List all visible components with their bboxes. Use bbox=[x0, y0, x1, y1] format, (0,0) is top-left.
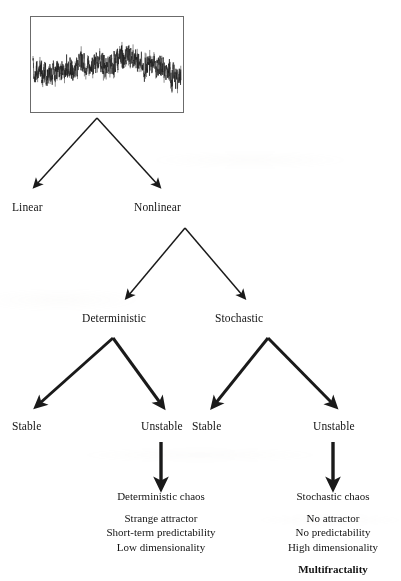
edge-root-to-nonlinear bbox=[97, 118, 158, 185]
node-stochastic-stable: Stable bbox=[192, 420, 221, 433]
outcome-stochastic-chaos-title: Stochastic chaos bbox=[253, 489, 401, 504]
time-series-trace bbox=[31, 17, 183, 112]
outcome-stochastic-chaos-emphasis: Multifractality bbox=[253, 562, 401, 577]
edge-deterministic-to-stable bbox=[39, 338, 113, 404]
node-deterministic-stable: Stable bbox=[12, 420, 41, 433]
time-series-plot-panel bbox=[30, 16, 184, 113]
outcome-deterministic-chaos-line-1: Strange attractor bbox=[81, 511, 241, 526]
node-nonlinear-label: Nonlinear bbox=[134, 201, 181, 213]
outcome-deterministic-chaos-title: Deterministic chaos bbox=[81, 489, 241, 504]
node-deterministic-stable-label: Stable bbox=[12, 420, 41, 432]
outcome-deterministic-chaos-line-2: Short-term predictability bbox=[81, 525, 241, 540]
node-stochastic: Stochastic bbox=[215, 312, 263, 325]
edge-nonlinear-to-stochastic bbox=[185, 228, 243, 296]
edge-root-to-linear bbox=[36, 118, 97, 185]
classification-tree-diagram: Linear Nonlinear Deterministic Stochasti… bbox=[0, 0, 401, 581]
node-nonlinear: Nonlinear bbox=[134, 201, 181, 214]
node-stochastic-unstable: Unstable bbox=[313, 420, 355, 433]
outcome-deterministic-chaos-line-3: Low dimensionality bbox=[81, 540, 241, 555]
node-deterministic-unstable-label: Unstable bbox=[141, 420, 183, 432]
node-deterministic-unstable: Unstable bbox=[141, 420, 183, 433]
node-linear-label: Linear bbox=[12, 201, 43, 213]
outcome-deterministic-chaos: Deterministic chaos Strange attractor Sh… bbox=[81, 489, 241, 554]
node-linear: Linear bbox=[12, 201, 43, 214]
outcome-stochastic-chaos-line-2: No predictability bbox=[253, 525, 401, 540]
edge-stochastic-to-stable bbox=[215, 338, 268, 404]
outcome-stochastic-chaos-line-3: High dimensionality bbox=[253, 540, 401, 555]
edge-deterministic-to-unstable bbox=[113, 338, 161, 404]
edge-stochastic-to-unstable bbox=[268, 338, 333, 404]
node-deterministic-label: Deterministic bbox=[82, 312, 146, 324]
node-stochastic-stable-label: Stable bbox=[192, 420, 221, 432]
node-stochastic-label: Stochastic bbox=[215, 312, 263, 324]
outcome-stochastic-chaos-line-1: No attractor bbox=[253, 511, 401, 526]
outcome-stochastic-chaos: Stochastic chaos No attractor No predict… bbox=[253, 489, 401, 577]
edge-nonlinear-to-deterministic bbox=[128, 228, 185, 296]
node-deterministic: Deterministic bbox=[82, 312, 146, 325]
node-stochastic-unstable-label: Unstable bbox=[313, 420, 355, 432]
